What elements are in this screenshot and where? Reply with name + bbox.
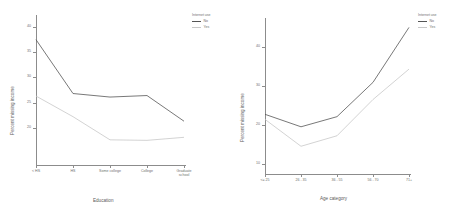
x-tick-mark: [409, 174, 410, 177]
age-line-plot: [0, 0, 229, 220]
x-tick-label: <= 25: [253, 178, 277, 182]
x-axis-line: [265, 174, 411, 175]
legend-label-yes: Yes: [430, 26, 436, 30]
series-line-yes: [265, 69, 409, 146]
legend-item-no[interactable]: No: [418, 20, 436, 24]
legend-swatch-yes: [418, 27, 427, 28]
y-tick-mark: [262, 47, 265, 48]
series-line-no: [265, 27, 409, 126]
x-tick-label: 71+: [397, 178, 421, 182]
legend-title: Internet use: [418, 14, 436, 18]
x-tick-label: 36 - 55: [325, 178, 349, 182]
figure-container: Percent missing income 4035302520 < HSHS…: [0, 0, 458, 220]
y-tick-label: 40: [247, 45, 260, 49]
x-tick-mark: [337, 174, 338, 177]
legend-swatch-no: [418, 21, 427, 22]
y-tick-label: 20: [247, 123, 260, 127]
x-tick-mark: [373, 174, 374, 177]
x-tick-label: 26 - 35: [289, 178, 313, 182]
legend-item-yes[interactable]: Yes: [418, 26, 436, 30]
y-tick-mark: [262, 125, 265, 126]
y-axis-line: [265, 18, 266, 174]
y-tick-label: 10: [247, 162, 260, 166]
x-tick-mark: [265, 174, 266, 177]
x-tick-label: 56 - 70: [361, 178, 385, 182]
x-axis-title: Age category: [320, 197, 347, 202]
age-panel: Percent missing income 40302010 <= 2526 …: [0, 0, 458, 220]
y-axis-title: Percent missing income: [241, 93, 246, 142]
y-tick-mark: [262, 164, 265, 165]
legend-label-no: No: [430, 20, 434, 24]
legend: Internet use No Yes: [418, 14, 436, 31]
y-tick-mark: [262, 86, 265, 87]
y-tick-label: 30: [247, 84, 260, 88]
x-tick-mark: [301, 174, 302, 177]
